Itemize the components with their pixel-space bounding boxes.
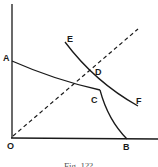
label-e: E (67, 34, 73, 44)
curve-ac (12, 61, 100, 90)
label-d: D (95, 67, 102, 77)
label-a: A (3, 53, 10, 63)
x-axis (11, 138, 158, 139)
diagram-canvas: A E D C F O B Fig. 1?? (0, 0, 158, 167)
label-b: B (123, 142, 130, 152)
label-f: F (136, 96, 142, 106)
dashed-ray-od (13, 29, 138, 136)
figure-caption: Fig. 1?? (64, 161, 93, 167)
label-c: C (91, 95, 98, 105)
label-o: O (7, 141, 14, 151)
